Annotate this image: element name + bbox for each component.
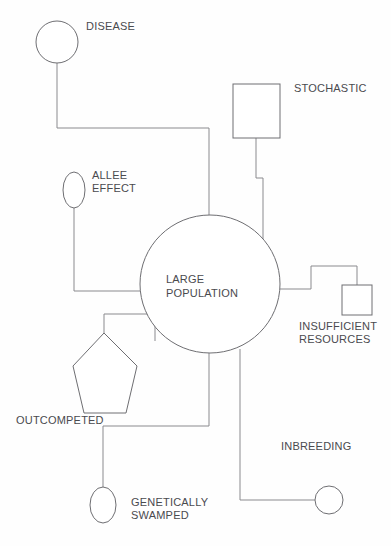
connector-allee-to-center	[74, 208, 142, 291]
large-population-label-line2: POPULATION	[166, 286, 238, 300]
stochastic-node-shape[interactable]	[233, 84, 280, 138]
genetically-swamped-node-shape[interactable]	[90, 487, 116, 523]
connector-stochastic-to-center	[256, 138, 263, 243]
connector-center-to-inbreeding	[240, 349, 315, 500]
connector-outcompeted-to-center	[104, 314, 155, 341]
disease-node-shape[interactable]	[36, 21, 78, 63]
outcompeted-node-shape[interactable]	[73, 333, 137, 413]
concept-map-diagram: DISEASE STOCHASTIC ALLEE EFFECT LARGE PO…	[0, 0, 391, 546]
large-population-node-shape[interactable]	[140, 215, 280, 353]
genetically-swamped-label-line2: SWAMPED	[131, 509, 189, 522]
allee-effect-label-line1: ALLEE	[92, 169, 127, 182]
insufficient-resources-label-line2: RESOURCES	[299, 333, 370, 346]
disease-label: DISEASE	[86, 20, 135, 33]
insufficient-resources-node-shape[interactable]	[342, 285, 372, 315]
outcompeted-label: OUTCOMPETED	[16, 414, 104, 427]
inbreeding-node-shape[interactable]	[315, 486, 343, 514]
insufficient-resources-label-line1: INSUFFICIENT	[299, 320, 377, 333]
allee-effect-label-line2: EFFECT	[92, 182, 136, 195]
inbreeding-label: INBREEDING	[281, 440, 351, 453]
genetically-swamped-label-line1: GENETICALLY	[131, 496, 208, 509]
allee-effect-node-shape[interactable]	[63, 172, 85, 208]
large-population-label-line1: LARGE	[166, 272, 204, 286]
stochastic-label: STOCHASTIC	[294, 82, 367, 95]
